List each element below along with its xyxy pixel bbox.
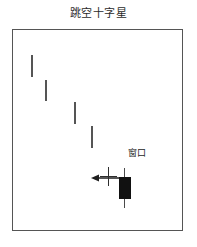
plot-frame bbox=[12, 29, 183, 231]
doji-horizontal-stroke bbox=[100, 176, 117, 177]
bar-line-2-stroke bbox=[45, 80, 47, 101]
candlestick-pattern-figure: 跳空十字星 窗 bbox=[0, 0, 197, 247]
page-title: 跳空十字星 bbox=[0, 7, 197, 21]
bar-line-4-stroke bbox=[91, 126, 93, 148]
gap-annotation-label: 窗口 bbox=[128, 148, 146, 159]
candle-body bbox=[119, 177, 131, 199]
bar-line-3-stroke bbox=[74, 102, 76, 124]
bar-line-1-stroke bbox=[31, 55, 33, 77]
